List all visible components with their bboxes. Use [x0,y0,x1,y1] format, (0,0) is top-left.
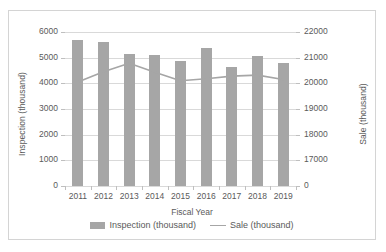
y-axis-right-tick-label: 22000 [304,27,328,36]
y-axis-left-tick-label: 4000 [39,78,58,87]
x-axis-tick-label: 2011 [69,191,87,201]
x-axis-tick [168,186,169,190]
x-axis-title: Fiscal Year [9,207,375,217]
y-axis-right-tick-label: 0 [304,181,309,190]
x-axis-tick-label: 2017 [222,191,241,201]
y-axis-right-tick-label: 19000 [304,104,328,113]
x-axis-tick-label: 2014 [145,191,164,201]
x-axis-tick [142,186,143,190]
x-axis-tick [91,186,92,190]
gridline [65,186,296,187]
chart-legend: Inspection (thousand)Sale (thousand) [9,220,375,230]
x-axis-tick [245,186,246,190]
y-axis-left-tick-label: 0 [53,181,58,190]
y-axis-right-tick [296,83,300,84]
bar-swatch-icon [90,222,105,229]
x-axis-tick-label: 2015 [171,191,190,201]
x-axis-tick [65,186,66,190]
y-axis-right-tick [296,135,300,136]
y-axis-right-title: Sale (thousand) [358,64,368,164]
y-axis-left-tick-label: 6000 [39,27,58,36]
y-axis-left-title: Inspection (thousand) [17,64,27,164]
y-axis-right-tick-label: 18000 [304,130,328,139]
y-axis-right-tick [296,58,300,59]
x-axis-tick [116,186,117,190]
y-axis-right-tick-label: 21000 [304,53,328,62]
line-swatch-icon [210,225,226,226]
x-axis-tick-label: 2012 [94,191,113,201]
x-axis-tick [219,186,220,190]
legend-label: Sale (thousand) [230,220,294,230]
line-series-sale [65,32,296,186]
y-axis-left-tick-label: 1000 [39,155,58,164]
y-axis-right-tick [296,109,300,110]
x-axis-tick [270,186,271,190]
legend-entry[interactable]: Inspection (thousand) [90,220,196,230]
x-axis-tick [193,186,194,190]
legend-label: Inspection (thousand) [109,220,196,230]
x-axis-tick-label: 2019 [274,191,293,201]
chart-container: Inspection (thousand) Sale (thousand) Fi… [8,10,376,240]
y-axis-right-tick-label: 20000 [304,78,328,87]
x-axis-tick-label: 2016 [197,191,216,201]
x-axis-tick-label: 2018 [248,191,267,201]
plot-area: 0100020003000400050006000 01700018000190… [65,32,296,186]
legend-entry[interactable]: Sale (thousand) [210,220,294,230]
x-axis-tick [296,186,297,190]
x-axis-tick-label: 2013 [120,191,139,201]
y-axis-left-tick-label: 3000 [39,104,58,113]
y-axis-left-tick-label: 2000 [39,130,58,139]
y-axis-left-tick-label: 5000 [39,53,58,62]
sale-line-path [78,63,283,82]
y-axis-right-tick-label: 17000 [304,155,328,164]
y-axis-right-tick [296,32,300,33]
y-axis-right-tick [296,160,300,161]
